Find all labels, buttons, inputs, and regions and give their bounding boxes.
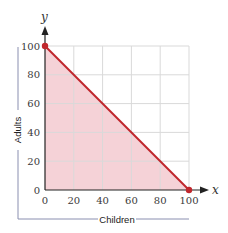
- y-tick-label: 0: [34, 185, 40, 196]
- x-axis-variable: x: [212, 183, 219, 197]
- y-tick-label: 40: [27, 127, 40, 138]
- x-tick-label: 0: [42, 195, 48, 206]
- chart: x y 020406080100 020406080100 Adults Chi…: [0, 0, 228, 233]
- y-axis-arrow-icon: [42, 26, 49, 35]
- x-tick-label: 80: [154, 195, 167, 206]
- x-tick-label: 20: [67, 195, 80, 206]
- y-axis-label: Adults: [12, 117, 23, 144]
- y-tick-label: 20: [27, 156, 40, 167]
- y-tick-label: 100: [21, 41, 40, 52]
- x-tick-label: 40: [96, 195, 109, 206]
- y-tick-labels: 020406080100: [21, 41, 40, 196]
- y-tick-label: 60: [27, 98, 40, 109]
- x-tick-label: 100: [179, 195, 198, 206]
- y-axis-variable: y: [40, 10, 48, 24]
- x-axis-arrow-icon: [200, 187, 209, 194]
- endpoint-marker: [186, 187, 192, 193]
- x-tick-label: 60: [125, 195, 138, 206]
- x-tick-labels: 020406080100: [42, 195, 199, 206]
- y-tick-label: 80: [27, 69, 40, 80]
- x-axis-label: Children: [99, 214, 134, 225]
- endpoint-marker: [42, 43, 48, 49]
